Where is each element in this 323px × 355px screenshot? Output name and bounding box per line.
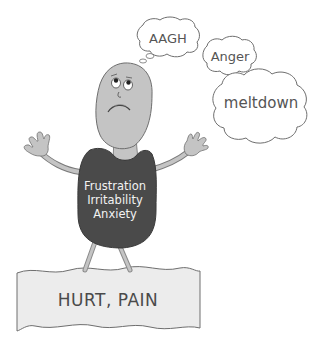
left-eye <box>112 78 121 88</box>
thought-dot <box>140 59 147 63</box>
shirt-label-frustration: Frustration <box>84 179 146 193</box>
cloud-label-anger: Anger <box>211 50 250 63</box>
right-eye <box>124 80 133 90</box>
left-hand <box>24 132 50 156</box>
illustration-canvas <box>0 0 323 355</box>
cloud-label-meltdown: meltdown <box>224 96 298 111</box>
shirt-label-anxiety: Anxiety <box>93 207 137 221</box>
right-hand <box>184 132 208 155</box>
ground-label: HURT, PAIN <box>58 292 159 309</box>
cloud-label-aagh: AAGH <box>149 32 187 45</box>
shirt-label-irritability: Irritability <box>87 193 143 207</box>
